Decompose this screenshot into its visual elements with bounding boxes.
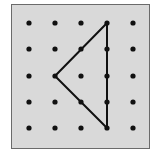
geoboard-diagram <box>0 0 153 154</box>
grid-dot <box>26 46 31 51</box>
grid-dot <box>130 20 135 25</box>
grid-dot <box>78 20 83 25</box>
grid-dot <box>78 73 83 78</box>
grid-dot <box>26 20 31 25</box>
grid-dot <box>26 73 31 78</box>
grid-dot <box>52 125 57 130</box>
grid-dot <box>26 125 31 130</box>
grid-dot <box>26 99 31 104</box>
grid-dot <box>130 125 135 130</box>
grid-dot <box>52 99 57 104</box>
grid-dot <box>52 20 57 25</box>
grid-dot <box>130 46 135 51</box>
grid-dot <box>78 125 83 130</box>
grid-dot <box>130 73 135 78</box>
grid-dot <box>130 99 135 104</box>
grid-dot <box>52 46 57 51</box>
